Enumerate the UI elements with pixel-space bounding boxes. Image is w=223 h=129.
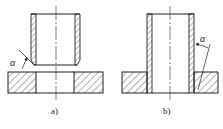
view-label-a: a) <box>51 106 58 116</box>
view-b: α b) <box>122 6 218 116</box>
view-label-b: b) <box>163 106 171 116</box>
tube-a <box>31 14 80 65</box>
plate-a <box>8 72 103 93</box>
diagram-canvas: α a) α b) <box>0 0 223 129</box>
view-a: α a) <box>8 6 103 116</box>
alpha-symbol-a: α <box>10 57 16 68</box>
tube-b <box>147 14 194 93</box>
alpha-symbol-b: α <box>200 33 206 44</box>
angle-annotation-a: α <box>10 50 34 69</box>
